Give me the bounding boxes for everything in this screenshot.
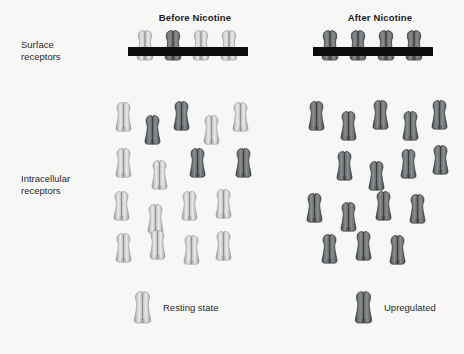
surface-receptor-after-1-upregulated xyxy=(346,29,370,62)
receptor-glyph xyxy=(333,150,356,182)
receptor-glyph xyxy=(303,192,326,224)
receptor-glyph xyxy=(374,29,398,62)
intracellular-receptor-after-14-upregulated xyxy=(352,230,375,262)
receptor-glyph xyxy=(180,234,203,266)
receptor-glyph xyxy=(170,100,193,132)
surface-receptor-after-2-upregulated xyxy=(374,29,398,62)
intracellular-receptor-after-8-upregulated xyxy=(429,144,452,176)
intracellular-receptor-before-3-resting xyxy=(200,114,223,146)
receptor-glyph xyxy=(365,160,388,192)
row-label-surface-receptors: Surface receptors xyxy=(21,39,61,62)
receptor-glyph xyxy=(399,110,422,142)
surface-receptor-after-0-upregulated xyxy=(318,29,342,62)
receptor-glyph xyxy=(146,229,169,261)
receptor-glyph xyxy=(178,190,201,222)
intracellular-receptor-before-15-resting xyxy=(180,234,203,266)
cell-membrane-before xyxy=(128,47,248,56)
intracellular-receptor-before-0-resting xyxy=(112,101,135,133)
receptor-glyph xyxy=(428,99,451,131)
intracellular-receptor-before-12-resting xyxy=(212,188,235,220)
column-title-before-nicotine: Before Nicotine xyxy=(131,12,259,23)
receptor-glyph xyxy=(133,29,157,62)
intracellular-receptor-after-3-upregulated xyxy=(399,110,422,142)
intracellular-receptor-before-14-resting xyxy=(146,229,169,261)
surface-receptor-before-3-resting xyxy=(217,29,241,62)
receptor-glyph xyxy=(352,230,375,262)
row-label-intracellular-receptors: Intracellular receptors xyxy=(21,173,70,196)
surface-receptor-before-1-upregulated xyxy=(161,29,185,62)
intracellular-receptor-before-4-resting xyxy=(229,101,252,133)
receptor-glyph xyxy=(112,232,135,264)
column-title-after-nicotine: After Nicotine xyxy=(316,12,444,23)
legend-receptor-upregulated xyxy=(351,290,376,325)
receptor-glyph xyxy=(212,230,235,262)
receptor-glyph xyxy=(402,29,426,62)
receptor-glyph xyxy=(337,110,360,142)
receptor-glyph xyxy=(386,234,409,266)
intracellular-receptor-after-6-upregulated xyxy=(365,160,388,192)
receptor-glyph xyxy=(372,190,395,222)
receptor-glyph xyxy=(429,144,452,176)
receptor-glyph xyxy=(200,114,223,146)
intracellular-receptor-after-11-upregulated xyxy=(372,190,395,222)
receptor-glyph xyxy=(337,201,360,233)
intracellular-receptor-after-15-upregulated xyxy=(386,234,409,266)
intracellular-receptor-before-5-resting xyxy=(112,147,135,179)
row-label-intracellular-line2: receptors xyxy=(21,185,61,196)
receptor-glyph xyxy=(148,159,171,191)
intracellular-receptor-before-1-upregulated xyxy=(141,114,164,146)
receptor-glyph xyxy=(130,290,155,325)
receptor-glyph xyxy=(397,148,420,180)
receptor-glyph xyxy=(229,101,252,133)
receptor-glyph xyxy=(406,193,429,225)
receptor-glyph xyxy=(110,190,133,222)
receptor-glyph xyxy=(318,233,341,265)
intracellular-receptor-before-16-resting xyxy=(212,230,235,262)
intracellular-receptor-after-7-upregulated xyxy=(397,148,420,180)
receptor-glyph xyxy=(318,29,342,62)
intracellular-receptor-before-11-resting xyxy=(178,190,201,222)
receptor-glyph xyxy=(346,29,370,62)
intracellular-receptor-before-7-upregulated xyxy=(186,147,209,179)
intracellular-receptor-after-2-upregulated xyxy=(369,99,392,131)
row-label-intracellular-line1: Intracellular xyxy=(21,173,70,184)
intracellular-receptor-after-1-upregulated xyxy=(337,110,360,142)
intracellular-receptor-before-6-resting xyxy=(148,159,171,191)
legend-receptor-resting xyxy=(130,290,155,325)
surface-receptor-after-3-upregulated xyxy=(402,29,426,62)
row-label-surface-line2: receptors xyxy=(21,51,61,62)
intracellular-receptor-after-0-upregulated xyxy=(305,100,328,132)
row-label-surface-line1: Surface xyxy=(21,39,54,50)
receptor-glyph xyxy=(189,29,213,62)
receptor-glyph xyxy=(351,290,376,325)
receptor-glyph xyxy=(232,147,255,179)
receptor-glyph xyxy=(112,101,135,133)
intracellular-receptor-after-9-upregulated xyxy=(303,192,326,224)
receptor-glyph xyxy=(305,100,328,132)
receptor-glyph xyxy=(369,99,392,131)
cell-membrane-after xyxy=(313,47,433,56)
receptor-glyph xyxy=(141,114,164,146)
surface-receptor-before-2-resting xyxy=(189,29,213,62)
legend-label-upregulated: Upregulated xyxy=(384,302,436,313)
intracellular-receptor-before-13-resting xyxy=(112,232,135,264)
receptor-glyph xyxy=(186,147,209,179)
intracellular-receptor-after-12-upregulated xyxy=(406,193,429,225)
receptor-glyph xyxy=(112,147,135,179)
intracellular-receptor-after-10-upregulated xyxy=(337,201,360,233)
receptor-glyph xyxy=(212,188,235,220)
receptor-glyph xyxy=(161,29,185,62)
intracellular-receptor-after-4-upregulated xyxy=(428,99,451,131)
intracellular-receptor-after-13-upregulated xyxy=(318,233,341,265)
surface-receptor-before-0-resting xyxy=(133,29,157,62)
intracellular-receptor-before-8-upregulated xyxy=(232,147,255,179)
legend-label-resting-state: Resting state xyxy=(163,302,218,313)
intracellular-receptor-before-2-upregulated xyxy=(170,100,193,132)
receptor-glyph xyxy=(217,29,241,62)
nicotine-receptor-diagram: Before Nicotine After Nicotine Surface r… xyxy=(0,0,464,354)
intracellular-receptor-after-5-upregulated xyxy=(333,150,356,182)
intracellular-receptor-before-9-resting xyxy=(110,190,133,222)
